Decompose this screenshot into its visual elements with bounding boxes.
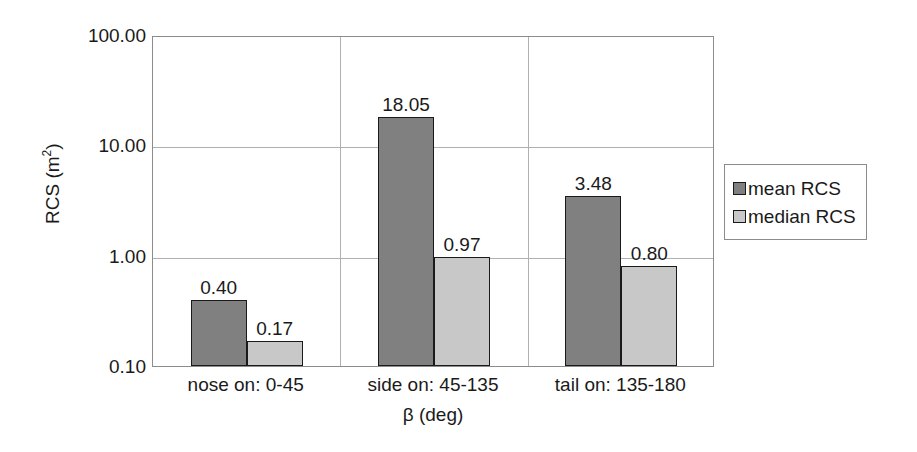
x-axis-tick-labels: nose on: 0-45side on: 45-135tail on: 135… [152, 374, 714, 400]
legend: mean RCSmedian RCS [724, 164, 867, 240]
bar-value-label: 18.05 [366, 95, 446, 114]
x-axis-title: β (deg) [152, 404, 714, 426]
bar[interactable] [434, 257, 490, 366]
y-axis-title-exponent: 2 [40, 150, 54, 157]
legend-swatch-icon [733, 210, 746, 223]
y-tick-label: 1.00 [60, 247, 146, 266]
rcs-bar-chart: RCS (m2) 100.0010.001.000.10 0.400.1718.… [0, 0, 917, 452]
bar-value-label: 3.48 [553, 174, 633, 193]
x-tick-label: tail on: 135-180 [527, 374, 714, 396]
y-tick-label: 100.00 [60, 26, 146, 45]
bar-value-label: 0.40 [179, 278, 259, 297]
legend-label: median RCS [748, 207, 856, 226]
y-axis-tick-labels: 100.0010.001.000.10 [56, 0, 146, 452]
y-tick-label: 10.00 [60, 136, 146, 155]
bar[interactable] [565, 196, 621, 366]
y-tick-label: 0.10 [60, 357, 146, 376]
plot-area: 0.400.1718.050.973.480.80 [152, 36, 714, 367]
group-divider [340, 37, 341, 366]
bar[interactable] [621, 266, 677, 366]
legend-item[interactable]: mean RCS [733, 174, 856, 202]
bar-value-label: 0.97 [422, 235, 502, 254]
bar[interactable] [247, 341, 303, 366]
bar-value-label: 0.17 [235, 319, 315, 338]
group-divider [528, 37, 529, 366]
x-tick-label: side on: 45-135 [339, 374, 526, 396]
legend-item[interactable]: median RCS [733, 202, 856, 230]
legend-swatch-icon [733, 182, 746, 195]
x-tick-label: nose on: 0-45 [152, 374, 339, 396]
bar-value-label: 0.80 [609, 244, 689, 263]
legend-label: mean RCS [748, 179, 841, 198]
